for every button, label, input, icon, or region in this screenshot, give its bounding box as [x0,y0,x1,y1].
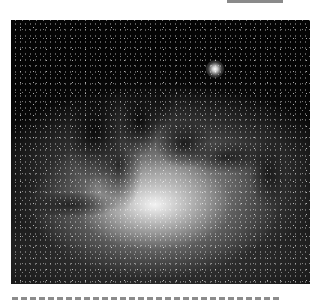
truncated-header-text: — — — — — — — — — [118,0,236,4]
milky-way-photo [11,20,310,284]
truncated-header-bar [227,0,283,3]
star-field [11,20,310,284]
dashed-divider [12,297,279,300]
bright-star [206,60,224,78]
